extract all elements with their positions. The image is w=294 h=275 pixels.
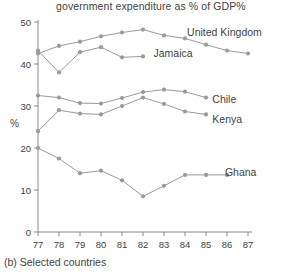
data-point-jamaica: [120, 55, 124, 59]
data-point-united-kingdom: [57, 44, 61, 48]
x-tick-label: 77: [33, 239, 44, 250]
data-point-chile: [141, 90, 145, 94]
data-point-chile: [204, 96, 208, 100]
series-label-chile: Chile: [212, 93, 236, 105]
series-line-kenya: [38, 98, 206, 132]
data-point-jamaica: [78, 50, 82, 54]
series-label-jamaica: Jamaica: [154, 47, 193, 59]
x-tick-label: 81: [117, 239, 128, 250]
data-point-ghana: [78, 171, 82, 175]
data-point-ghana: [36, 146, 40, 150]
figure-caption: (b) Selected countries: [4, 256, 106, 268]
data-point-chile: [99, 101, 103, 105]
data-point-united-kingdom: [78, 40, 82, 44]
data-point-chile: [36, 93, 40, 97]
series-label-united-kingdom: United Kingdom: [187, 26, 262, 38]
figure-panel: government expenditure as % of GDP% 0102…: [0, 0, 294, 275]
data-point-kenya: [204, 112, 208, 116]
series-label-kenya: Kenya: [212, 113, 242, 125]
x-tick-label: 85: [201, 239, 212, 250]
data-point-chile: [162, 88, 166, 92]
data-point-united-kingdom: [204, 43, 208, 47]
y-tick-label: 50: [20, 17, 31, 28]
data-point-ghana: [99, 169, 103, 173]
series-line-jamaica: [38, 47, 143, 72]
x-tick-label: 86: [222, 239, 233, 250]
data-point-kenya: [120, 104, 124, 108]
data-point-jamaica: [141, 54, 145, 58]
y-tick-label: 30: [20, 101, 31, 112]
data-point-united-kingdom: [225, 49, 229, 53]
y-tick-label: 20: [20, 143, 31, 154]
data-point-kenya: [141, 96, 145, 100]
data-point-kenya: [183, 109, 187, 113]
series-line-ghana: [38, 148, 227, 196]
data-point-kenya: [57, 108, 61, 112]
data-point-chile: [57, 96, 61, 100]
y-axis-name: %: [10, 118, 19, 129]
line-chart-plot: 01020304050%7778798081828384858687United…: [0, 0, 294, 275]
series-label-ghana: Ghana: [225, 166, 257, 178]
x-tick-label: 84: [180, 239, 191, 250]
data-point-kenya: [78, 112, 82, 116]
data-point-ghana: [204, 173, 208, 177]
data-point-ghana: [57, 156, 61, 160]
data-point-chile: [183, 90, 187, 94]
data-point-united-kingdom: [141, 28, 145, 32]
data-point-ghana: [183, 173, 187, 177]
data-point-jamaica: [57, 70, 61, 74]
data-point-jamaica: [99, 45, 103, 49]
data-point-chile: [78, 101, 82, 105]
data-point-chile: [120, 96, 124, 100]
data-point-kenya: [162, 102, 166, 106]
data-point-united-kingdom: [162, 33, 166, 37]
x-tick-label: 79: [75, 239, 86, 250]
data-point-kenya: [36, 129, 40, 133]
data-point-kenya: [99, 112, 103, 116]
data-point-jamaica: [36, 49, 40, 53]
data-point-united-kingdom: [246, 51, 250, 55]
data-point-ghana: [162, 184, 166, 188]
data-point-united-kingdom: [120, 30, 124, 34]
y-tick-label: 40: [20, 59, 31, 70]
x-tick-label: 80: [96, 239, 107, 250]
y-tick-label: 10: [20, 185, 31, 196]
y-tick-label: 0: [26, 227, 31, 238]
data-point-ghana: [141, 194, 145, 198]
x-tick-label: 83: [159, 239, 170, 250]
data-point-ghana: [120, 178, 124, 182]
data-point-united-kingdom: [99, 34, 103, 38]
x-tick-label: 87: [243, 239, 254, 250]
x-tick-label: 82: [138, 239, 149, 250]
x-tick-label: 78: [54, 239, 65, 250]
